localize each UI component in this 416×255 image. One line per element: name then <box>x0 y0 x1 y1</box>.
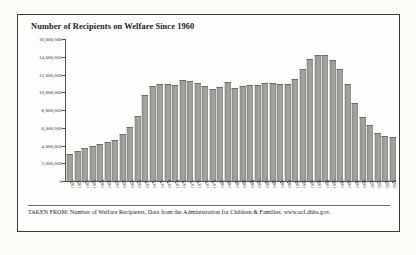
figure-frame: Number of Recipients on Welfare Since 19… <box>17 14 400 232</box>
bar <box>81 148 88 181</box>
bar <box>284 84 291 181</box>
bar <box>254 85 261 181</box>
bar <box>179 80 186 181</box>
bar <box>291 79 298 181</box>
bar <box>329 60 336 181</box>
source-caption: TAKEN FROM: Number of Welfare Recipients… <box>28 209 394 217</box>
bar <box>276 84 283 181</box>
bar <box>126 127 133 181</box>
y-axis-tick-label: 2,000,000 <box>42 161 62 166</box>
y-axis-tick-label: 16,000,000 <box>39 37 62 42</box>
bar <box>89 146 96 181</box>
bar <box>336 69 343 181</box>
y-axis-labels: 16,000,00014,000,00012,000,00010,000,000… <box>18 39 65 181</box>
bar-series <box>66 39 396 181</box>
bar <box>344 84 351 181</box>
bar <box>359 117 366 181</box>
bar <box>231 88 238 181</box>
bar <box>104 142 111 181</box>
x-axis-tick-label: 2003 <box>392 179 397 188</box>
bar <box>239 86 246 181</box>
bar <box>66 154 73 181</box>
plot-area: 16,000,00014,000,00012,000,00010,000,000… <box>18 39 401 204</box>
bar <box>306 59 313 181</box>
bar <box>186 81 193 181</box>
bar <box>366 125 373 181</box>
bar <box>224 82 231 181</box>
bar <box>381 136 388 181</box>
bar <box>164 84 171 181</box>
bar <box>141 95 148 181</box>
bar <box>261 83 268 181</box>
y-axis-tick-label: 4,000,000 <box>42 143 62 148</box>
bar <box>194 83 201 181</box>
caption-divider <box>28 205 390 206</box>
y-axis-tick-label: 10,000,000 <box>39 90 62 95</box>
bar <box>111 140 118 181</box>
bar <box>269 83 276 181</box>
bar <box>156 84 163 181</box>
bar <box>134 116 141 181</box>
bar <box>209 89 216 181</box>
bar <box>351 103 358 181</box>
bar <box>246 85 253 181</box>
bar <box>389 137 396 181</box>
bar <box>374 133 381 181</box>
bar <box>149 86 156 181</box>
y-axis-tick-label: 12,000,000 <box>39 72 62 77</box>
bar <box>321 55 328 181</box>
bar <box>216 87 223 181</box>
y-axis-tick-label: 8,000,000 <box>42 108 62 113</box>
bar <box>299 69 306 181</box>
scanned-page: Number of Recipients on Welfare Since 19… <box>0 0 416 255</box>
bar <box>96 144 103 181</box>
bar <box>314 55 321 181</box>
y-axis-tick-label: 14,000,000 <box>39 54 62 59</box>
bar <box>119 134 126 181</box>
bar <box>171 85 178 181</box>
bar <box>74 151 81 181</box>
bar <box>201 86 208 181</box>
y-axis-tick-label: 6,000,000 <box>42 125 62 130</box>
chart-title: Number of Recipients on Welfare Since 19… <box>31 22 194 31</box>
